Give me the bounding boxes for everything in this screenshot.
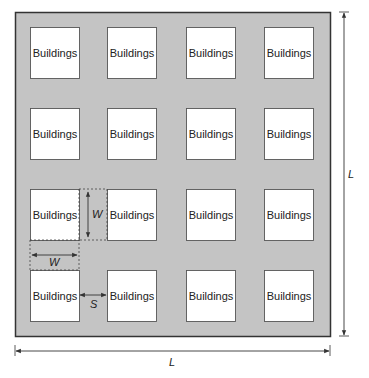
building-label: Buildings <box>189 209 234 221</box>
building-label: Buildings <box>189 290 234 302</box>
building-label: Buildings <box>189 47 234 59</box>
building-label: Buildings <box>110 290 155 302</box>
building-label: Buildings <box>267 47 312 59</box>
building: Buildings <box>108 109 157 160</box>
building: Buildings <box>265 271 314 322</box>
dim-label-w-horizontal: W <box>49 256 61 268</box>
building-label: Buildings <box>33 47 78 59</box>
dim-label-l-horizontal: L <box>169 356 175 368</box>
building-label: Buildings <box>267 128 312 140</box>
building: Buildings <box>108 28 157 79</box>
dim-label-w-vertical: W <box>92 208 104 220</box>
urban-layout-diagram: BuildingsBuildingsBuildingsBuildingsBuil… <box>0 0 369 378</box>
building: Buildings <box>31 271 80 322</box>
building: Buildings <box>187 28 236 79</box>
building: Buildings <box>265 109 314 160</box>
building: Buildings <box>108 271 157 322</box>
building: Buildings <box>265 190 314 241</box>
building: Buildings <box>187 109 236 160</box>
building-label: Buildings <box>33 290 78 302</box>
building: Buildings <box>265 28 314 79</box>
building-label: Buildings <box>33 209 78 221</box>
dim-label-s: S <box>90 298 98 310</box>
building-label: Buildings <box>267 290 312 302</box>
building-label: Buildings <box>110 128 155 140</box>
dim-label-l-vertical: L <box>348 168 354 180</box>
building-label: Buildings <box>110 47 155 59</box>
building-label: Buildings <box>189 128 234 140</box>
building: Buildings <box>187 190 236 241</box>
building-label: Buildings <box>33 128 78 140</box>
building: Buildings <box>31 28 80 79</box>
building: Buildings <box>31 190 80 241</box>
building-label: Buildings <box>110 209 155 221</box>
building: Buildings <box>31 109 80 160</box>
building: Buildings <box>108 190 157 241</box>
building-label: Buildings <box>267 209 312 221</box>
dimension-l-horizontal: L <box>15 345 330 368</box>
dimension-l-vertical: L <box>339 12 354 336</box>
building: Buildings <box>187 271 236 322</box>
